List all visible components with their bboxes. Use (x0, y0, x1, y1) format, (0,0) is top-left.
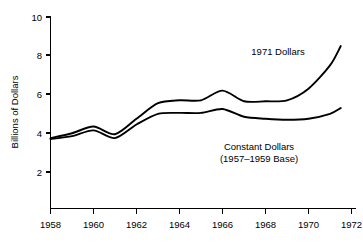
x-tick-label: 1962 (126, 219, 147, 230)
annotation-1971-dollars: 1971 Dollars (251, 46, 305, 57)
y-tick-label: 4 (37, 128, 42, 139)
annotation-constant-dollars-line1: Constant Dollars (224, 141, 294, 152)
x-tick-label: 1972 (341, 219, 362, 230)
x-tick-label: 1966 (212, 219, 233, 230)
annotation-constant-dollars-line2: (1957–1959 Base) (220, 153, 298, 164)
y-tick-label: 8 (37, 50, 42, 61)
y-tick-label: 10 (31, 12, 42, 23)
x-tick-label: 1960 (83, 219, 104, 230)
y-axis-title: Billions of Dollars (9, 75, 20, 148)
line-chart: 10 8 6 4 2 Billions of Dollars 1958 1960… (0, 0, 363, 246)
y-tick-label: 6 (37, 89, 42, 100)
y-tick-label: 2 (37, 167, 42, 178)
x-tick-label: 1970 (298, 219, 319, 230)
chart-container: 10 8 6 4 2 Billions of Dollars 1958 1960… (0, 0, 363, 246)
x-tick-label: 1958 (40, 219, 61, 230)
x-tick-label: 1968 (255, 219, 276, 230)
x-tick-label: 1964 (169, 219, 190, 230)
